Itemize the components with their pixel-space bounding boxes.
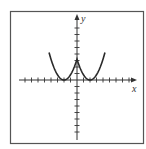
graph-figure: x y bbox=[0, 0, 146, 149]
x-axis-label: x bbox=[131, 83, 137, 94]
y-axis-label: y bbox=[80, 13, 86, 24]
